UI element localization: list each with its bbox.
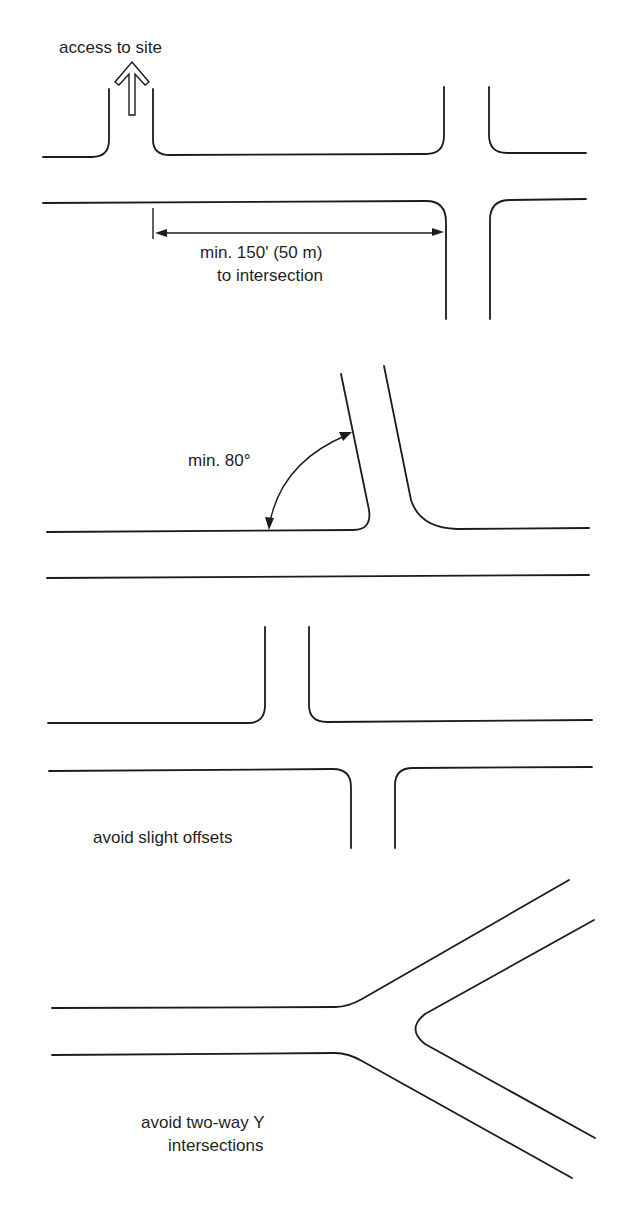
panel-y-intersection: avoid two-way Y intersections xyxy=(52,880,595,1178)
road-edge-upper-right xyxy=(489,87,586,153)
road-edge-lower-right xyxy=(490,199,586,319)
offset-upper-left-edge xyxy=(48,627,265,723)
y-upper-outer-edge xyxy=(52,880,569,1008)
angle-arrow-bottom-icon xyxy=(265,517,274,530)
road-edge-upper-left xyxy=(43,89,109,157)
intersection-design-diagram: access to site min. 150' (50 m) to inter… xyxy=(0,0,623,1212)
panel-angle: min. 80° xyxy=(47,366,589,578)
angle-label: min. 80° xyxy=(188,451,251,470)
dimension-arrow-left-icon xyxy=(155,229,167,237)
panel-access-spacing: access to site min. 150' (50 m) to inter… xyxy=(43,38,586,319)
dimension-label-line2: to intersection xyxy=(217,266,323,285)
offset-lower-right-edge xyxy=(395,767,592,848)
road-edge-upper-middle xyxy=(153,87,444,155)
access-to-site-label: access to site xyxy=(59,38,162,57)
arrow-up-icon xyxy=(115,62,149,115)
main-road-far-edge xyxy=(47,575,589,578)
offset-upper-right-edge xyxy=(309,627,592,722)
y-caption-line1: avoid two-way Y xyxy=(141,1113,264,1132)
offsets-caption: avoid slight offsets xyxy=(93,828,233,847)
y-caption-line2: intersections xyxy=(168,1136,263,1155)
dimension-label-line1: min. 150' (50 m) xyxy=(200,243,322,262)
angle-arrow-top-icon xyxy=(339,432,352,441)
skewed-road-right-edge xyxy=(384,366,589,529)
dimension-arrow-right-icon xyxy=(432,228,444,236)
angle-arc xyxy=(270,435,347,522)
panel-offsets: avoid slight offsets xyxy=(48,627,592,848)
y-lower-outer-edge xyxy=(52,1053,572,1178)
